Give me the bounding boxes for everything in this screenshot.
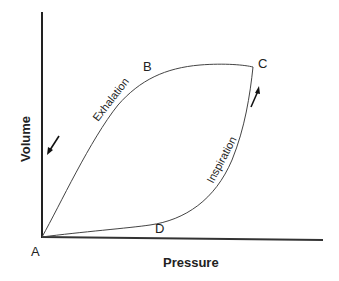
- point-b-label: B: [143, 59, 152, 74]
- exhalation-label: Exhalation: [90, 75, 131, 123]
- point-a-label: A: [31, 244, 40, 259]
- pressure-volume-diagram: A B C D Exhalation Inspiration Volume Pr…: [0, 0, 339, 281]
- x-axis: [42, 237, 323, 240]
- inspiration-arrow-icon: [251, 86, 260, 107]
- inspiration-label: Inspiration: [204, 134, 238, 184]
- x-axis-title: Pressure: [163, 255, 219, 270]
- y-axis-title: Volume: [18, 116, 33, 162]
- exhalation-arrow-icon: [47, 136, 59, 155]
- point-c-label: C: [258, 56, 267, 71]
- point-d-label: D: [155, 221, 164, 236]
